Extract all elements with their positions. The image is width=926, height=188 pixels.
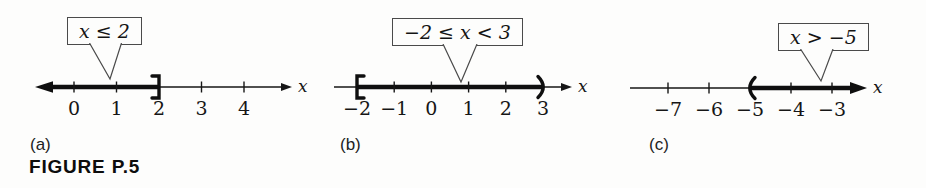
panel-label-c: (c): [649, 135, 669, 155]
tick-label: −3: [818, 98, 846, 120]
callout-a-text: x ≤ 2: [79, 20, 130, 42]
tick-label: 0: [68, 97, 80, 119]
figure-caption: FIGURE P.5: [29, 156, 140, 178]
tick-label: 1: [463, 97, 475, 119]
callout-pointer-c: [799, 49, 835, 83]
callout-pointer-b: [441, 44, 479, 84]
tick-label: 2: [500, 97, 512, 119]
axis-label-x: x: [578, 76, 588, 96]
callout-a: x ≤ 2: [67, 17, 142, 45]
tick-label: 2: [153, 97, 165, 119]
callout-c-text: x > −5: [790, 26, 857, 48]
callout-b-text: −2 ≤ x < 3: [404, 21, 511, 43]
callout-c: x > −5: [778, 23, 869, 51]
callout-pointer-a: [88, 43, 124, 81]
tick-label: −7: [654, 98, 682, 120]
panel-label-a: (a): [30, 135, 51, 155]
callout-b: −2 ≤ x < 3: [392, 18, 523, 46]
tick-label: −5: [736, 98, 764, 120]
axis-label-x: x: [873, 77, 883, 97]
tick-label: −1: [380, 97, 408, 119]
tick-label: 3: [195, 97, 207, 119]
panel-label-b: (b): [340, 135, 361, 155]
tick-label: 0: [425, 97, 437, 119]
axis-label-x: x: [298, 76, 308, 96]
number-line-a: 01234x: [35, 76, 308, 119]
tick-label: 4: [238, 97, 250, 119]
number-line-c: −7−6−5−4−3x: [630, 77, 883, 120]
tick-label: −4: [777, 98, 805, 120]
tick-label: 1: [110, 97, 122, 119]
tick-label: 3: [537, 97, 549, 119]
tick-label: −6: [695, 98, 723, 120]
figure-p5: 01234x−2−10123x−7−6−5−4−3x x ≤ 2 −2 ≤ x …: [0, 0, 926, 188]
tick-label: −2: [343, 97, 371, 119]
